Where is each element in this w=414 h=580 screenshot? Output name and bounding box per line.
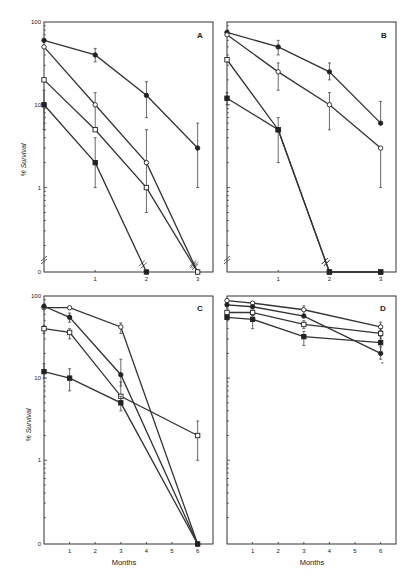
panel-d-frame	[227, 296, 396, 544]
open-square-marker	[195, 433, 199, 437]
filled-square-marker	[93, 160, 97, 164]
filled-circle-marker	[225, 303, 229, 307]
y-tick-label: 10	[34, 102, 41, 108]
filled-circle-marker	[144, 93, 148, 97]
panel-d-plot	[225, 298, 383, 359]
open-circle-marker	[378, 146, 382, 150]
filled-circle-marker	[327, 70, 331, 74]
open-square-marker	[302, 322, 306, 326]
x-tick-label: 6	[379, 548, 383, 554]
filled-square-marker	[42, 103, 46, 107]
open-square-marker	[42, 326, 46, 330]
y-tick-label: 100	[31, 293, 42, 299]
open-square-marker	[225, 310, 229, 314]
x-tick-label: 1	[277, 276, 281, 282]
filled-circle-marker	[119, 373, 123, 377]
series-line	[227, 32, 381, 123]
open-circle-marker	[42, 45, 46, 49]
filled-square-marker	[225, 96, 229, 100]
open-square-marker	[225, 58, 229, 62]
panel-b-label: B	[381, 31, 387, 40]
y-tick-label: 100	[31, 19, 42, 25]
panel-d: 123456 D Months *	[225, 296, 396, 567]
filled-square-marker	[378, 340, 382, 344]
filled-circle-marker	[42, 304, 46, 308]
y-tick-label: 0	[38, 541, 42, 547]
series-line	[44, 80, 198, 272]
open-square-marker	[67, 330, 71, 334]
open-square-marker	[144, 185, 148, 189]
filled-square-marker	[225, 315, 229, 319]
open-square-marker	[93, 128, 97, 132]
asterisk-mark: *	[381, 361, 384, 367]
panel-c: 1001010123456 C % Survival Months	[25, 293, 213, 567]
panel-a-axis-ticks: 1001010123	[31, 19, 200, 282]
open-square-marker	[250, 310, 254, 314]
filled-circle-marker	[67, 315, 71, 319]
filled-square-marker	[195, 542, 199, 546]
filled-square-marker	[144, 270, 148, 274]
open-circle-marker	[93, 103, 97, 107]
panel-c-plot	[42, 304, 200, 546]
filled-square-marker	[327, 270, 331, 274]
x-axis-title-c: Months	[112, 558, 137, 567]
x-tick-label: 2	[145, 276, 149, 282]
open-square-marker	[378, 331, 382, 335]
panel-b-plot	[225, 30, 383, 274]
x-tick-label: 1	[251, 548, 255, 554]
x-tick-label: 4	[145, 548, 149, 554]
x-tick-label: 3	[196, 276, 200, 282]
filled-circle-marker	[250, 305, 254, 309]
y-tick-label: 1	[38, 457, 42, 463]
panel-b-axis-ticks: 123	[224, 26, 383, 282]
y-tick-label: 10	[34, 375, 41, 381]
series-line	[227, 60, 381, 272]
filled-circle-marker	[42, 38, 46, 42]
x-tick-label: 3	[119, 548, 123, 554]
x-tick-label: 6	[196, 548, 200, 554]
open-circle-marker	[225, 298, 229, 302]
y-axis-title-a: % Survival	[20, 143, 27, 177]
open-circle-marker	[225, 33, 229, 37]
panel-a-label: A	[197, 31, 203, 40]
y-tick-label: 0	[38, 269, 42, 275]
survival-figure: 1001010123 A % Survival 123 B 1001010123…	[0, 0, 414, 580]
filled-square-marker	[276, 128, 280, 132]
open-circle-marker	[119, 325, 123, 329]
x-tick-label: 2	[328, 276, 332, 282]
open-square-marker	[42, 78, 46, 82]
filled-circle-marker	[276, 45, 280, 49]
y-axis-title-c: % Survival	[25, 408, 32, 442]
series-line	[44, 308, 198, 544]
x-tick-label: 5	[170, 548, 174, 554]
panel-a: 1001010123 A % Survival	[20, 19, 213, 282]
panel-b: 123 B	[224, 22, 396, 282]
x-tick-label: 2	[94, 548, 98, 554]
filled-circle-marker	[302, 314, 306, 318]
y-tick-label: 1	[38, 185, 42, 191]
x-tick-label: 1	[68, 548, 72, 554]
filled-square-marker	[67, 376, 71, 380]
x-axis-title-d: Months	[300, 558, 325, 567]
panel-d-label: D	[380, 304, 386, 313]
filled-circle-marker	[93, 53, 97, 57]
filled-square-marker	[42, 369, 46, 373]
series-line	[44, 40, 198, 148]
filled-circle-marker	[195, 146, 199, 150]
x-tick-label: 1	[94, 276, 98, 282]
panel-a-plot	[42, 38, 200, 274]
panel-b-frame	[227, 22, 396, 272]
x-tick-label: 3	[302, 548, 306, 554]
x-tick-label: 2	[277, 548, 281, 554]
x-tick-label: 3	[379, 276, 383, 282]
filled-square-marker	[302, 334, 306, 338]
filled-square-marker	[250, 317, 254, 321]
open-circle-marker	[276, 70, 280, 74]
series-line	[227, 98, 381, 272]
filled-square-marker	[378, 270, 382, 274]
x-tick-label: 5	[353, 548, 357, 554]
panel-c-label: C	[197, 304, 203, 313]
filled-square-marker	[119, 401, 123, 405]
open-circle-marker	[144, 160, 148, 164]
filled-circle-marker	[378, 121, 382, 125]
